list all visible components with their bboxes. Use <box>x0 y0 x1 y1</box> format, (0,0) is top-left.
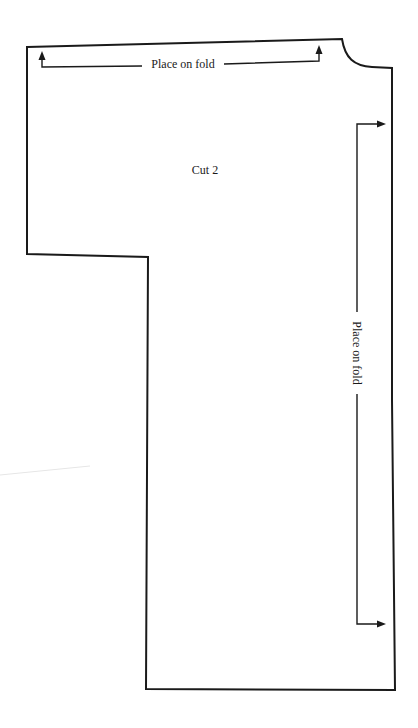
cut-instruction: Cut 2 <box>192 163 218 177</box>
right-fold-bottom-leg <box>357 394 378 624</box>
right-fold-top-leg <box>357 124 378 312</box>
top-fold-label: Place on fold <box>151 57 214 71</box>
arrow-right-icon <box>377 121 386 128</box>
right-fold-label: Place on fold <box>350 321 364 384</box>
top-fold-right-leg <box>224 51 319 64</box>
pattern-piece-outline <box>27 39 395 690</box>
pattern-diagram: Place on fold Cut 2 Place on fold <box>0 0 418 728</box>
right-fold-bracket: Place on fold <box>350 121 386 628</box>
arrow-right-icon <box>377 621 386 628</box>
arrow-up-icon <box>39 51 46 60</box>
arrow-up-icon <box>316 45 323 54</box>
scan-smudge <box>0 466 90 475</box>
top-fold-bracket: Place on fold <box>39 45 323 71</box>
top-fold-left-leg <box>42 57 142 67</box>
